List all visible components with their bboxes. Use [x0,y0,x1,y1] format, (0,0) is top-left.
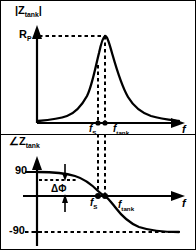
rp-tick-label: RP [19,29,32,43]
phase-curve [38,172,179,232]
magnitude-plot-panel: |Ztank| RP fS ftank f [1,1,196,134]
impedance-response-figure: |Ztank| RP fS ftank f [0,0,196,250]
phase-plot-panel: ∠Ztank 90 -90 ΔΦ fS ftank f [1,134,196,250]
ftank-tick-magnitude [102,120,107,125]
phase-y-axis-label: ∠Ztank [9,136,40,150]
fs-label-phase: fS [90,198,97,210]
ftank-label-phase: ftank [118,200,134,212]
magnitude-y-axis [32,25,42,123]
phase-x-axis-label: f [182,198,186,209]
plus90-tick-label: 90 [15,165,27,176]
magnitude-y-axis-label: |Ztank| [15,5,42,19]
magnitude-curve [38,36,179,121]
delta-phi-label: ΔΦ [51,184,66,194]
ftank-point-marker-phase [102,193,108,199]
magnitude-plot-canvas [1,1,196,134]
minus90-tick-label: -90 [9,225,25,236]
phase-plot-canvas [1,134,196,250]
